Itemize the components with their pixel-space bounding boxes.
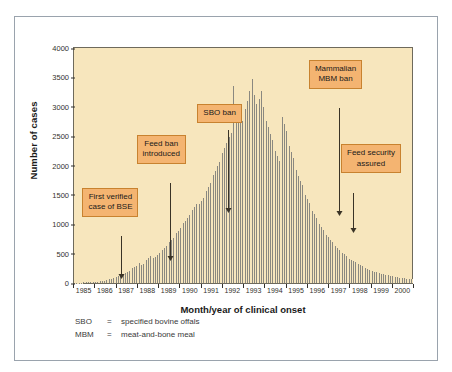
x-axis-tick-mark bbox=[137, 284, 138, 288]
x-axis-tick-label: 1994 bbox=[267, 287, 283, 294]
annotation-arrowhead-feed-security-assured bbox=[350, 228, 356, 233]
annotation-feed-ban-introduced: Feed banintroduced bbox=[137, 135, 186, 164]
x-axis-tick-label: 1999 bbox=[373, 287, 389, 294]
x-axis-tick-mark bbox=[286, 284, 287, 288]
annotation-sbo-ban: SBO ban bbox=[197, 104, 241, 123]
x-axis-tick-mark bbox=[371, 284, 372, 288]
annotation-line: Feed security bbox=[347, 148, 395, 159]
annotation-leader-line-feed-security-assured bbox=[353, 193, 354, 228]
annotation-line: assured bbox=[347, 159, 395, 170]
footnote-row: SBO = specified bovine offals bbox=[75, 315, 200, 328]
x-axis-tick-label: 1996 bbox=[310, 287, 326, 294]
footnote-equals: = bbox=[107, 315, 121, 328]
x-axis-tick-mark bbox=[94, 284, 95, 288]
x-axis-tick-mark bbox=[116, 284, 117, 288]
x-axis-tick-label: 1990 bbox=[182, 287, 198, 294]
annotation-line: introduced bbox=[143, 149, 180, 160]
x-axis-tick-label: 1998 bbox=[352, 287, 368, 294]
x-axis-tick-mark bbox=[349, 284, 350, 288]
x-axis-tick-mark bbox=[413, 284, 414, 288]
annotation-line: First verified bbox=[88, 192, 132, 203]
annotation-feed-security-assured: Feed securityassured bbox=[341, 144, 401, 173]
x-axis-tick-mark bbox=[243, 284, 244, 288]
x-axis-tick-label: 1991 bbox=[203, 287, 219, 294]
x-axis-label: Month/year of clinical onset bbox=[73, 304, 413, 315]
y-axis-tick-label: 2000 bbox=[52, 161, 74, 170]
footnote-legend: SBO = specified bovine offals MBM = meat… bbox=[75, 315, 200, 341]
annotation-arrowhead-feed-ban-introduced bbox=[168, 256, 174, 261]
annotation-mammalian-mbm-ban: MammalianMBM ban bbox=[309, 60, 362, 89]
x-axis-tick-mark bbox=[307, 284, 308, 288]
x-axis-tick-label: 1997 bbox=[331, 287, 347, 294]
x-axis-tick-mark bbox=[179, 284, 180, 288]
x-axis-tick-label: 1988 bbox=[140, 287, 156, 294]
annotation-line: case of BSE bbox=[88, 202, 132, 213]
y-axis-tick-label: 1500 bbox=[52, 190, 74, 199]
y-axis-tick-label: 3500 bbox=[52, 73, 74, 82]
figure-frame: Number of cases 050010001500200025003000… bbox=[14, 16, 438, 361]
x-axis-tick-label: 1992 bbox=[225, 287, 241, 294]
annotation-arrowhead-mammalian-mbm-ban bbox=[337, 211, 343, 216]
x-axis-tick-mark bbox=[158, 284, 159, 288]
y-axis-tick-label: 500 bbox=[56, 249, 74, 258]
x-axis-tick-label: 1985 bbox=[76, 287, 92, 294]
x-axis-tick-mark bbox=[222, 284, 223, 288]
y-axis-tick-label: 3000 bbox=[52, 102, 74, 111]
x-axis-tick-mark bbox=[392, 284, 393, 288]
footnote-equals: = bbox=[107, 328, 121, 341]
bar bbox=[411, 279, 413, 283]
y-axis-label: Number of cases bbox=[28, 51, 39, 231]
y-axis-tick-label: 4000 bbox=[52, 44, 74, 53]
annotation-leader-line-sbo-ban bbox=[228, 130, 229, 208]
x-axis-tick-mark bbox=[264, 284, 265, 288]
y-axis-tick-label: 1000 bbox=[52, 220, 74, 229]
plot-area: 05001000150020002500300035004000 First v… bbox=[73, 47, 413, 284]
annotation-arrowhead-first-verified-case bbox=[119, 274, 125, 279]
x-axis-tick-label: 1986 bbox=[97, 287, 113, 294]
annotation-line: Feed ban bbox=[143, 139, 180, 150]
x-axis-tick-label: 2000 bbox=[395, 287, 411, 294]
annotation-leader-line-feed-ban-introduced bbox=[170, 183, 171, 256]
x-axis-tick-label: 1995 bbox=[288, 287, 304, 294]
x-axis-tick-mark bbox=[201, 284, 202, 288]
annotation-first-verified-case: First verifiedcase of BSE bbox=[82, 188, 138, 217]
annotation-line: MBM ban bbox=[315, 74, 356, 85]
x-axis-tick-label: 1993 bbox=[246, 287, 262, 294]
x-axis-tick-label: 1989 bbox=[161, 287, 177, 294]
annotation-line: SBO ban bbox=[203, 108, 235, 119]
footnote-row: MBM = meat-and-bone meal bbox=[75, 328, 200, 341]
annotation-arrowhead-sbo-ban bbox=[225, 208, 231, 213]
x-axis-ticks: 1985198619871988198919901991199219931994… bbox=[73, 284, 413, 302]
annotation-line: Mammalian bbox=[315, 64, 356, 75]
footnote-key: SBO bbox=[75, 315, 107, 328]
y-axis-tick-label: 2500 bbox=[52, 132, 74, 141]
footnote-key: MBM bbox=[75, 328, 107, 341]
annotation-leader-line-first-verified-case bbox=[121, 236, 122, 274]
bse-cases-bar-chart: Number of cases 050010001500200025003000… bbox=[15, 17, 439, 307]
x-axis-tick-label: 1987 bbox=[118, 287, 134, 294]
x-axis-tick-mark bbox=[73, 284, 74, 288]
footnote-text: specified bovine offals bbox=[121, 315, 200, 328]
x-axis-tick-mark bbox=[328, 284, 329, 288]
footnote-text: meat-and-bone meal bbox=[121, 328, 195, 341]
